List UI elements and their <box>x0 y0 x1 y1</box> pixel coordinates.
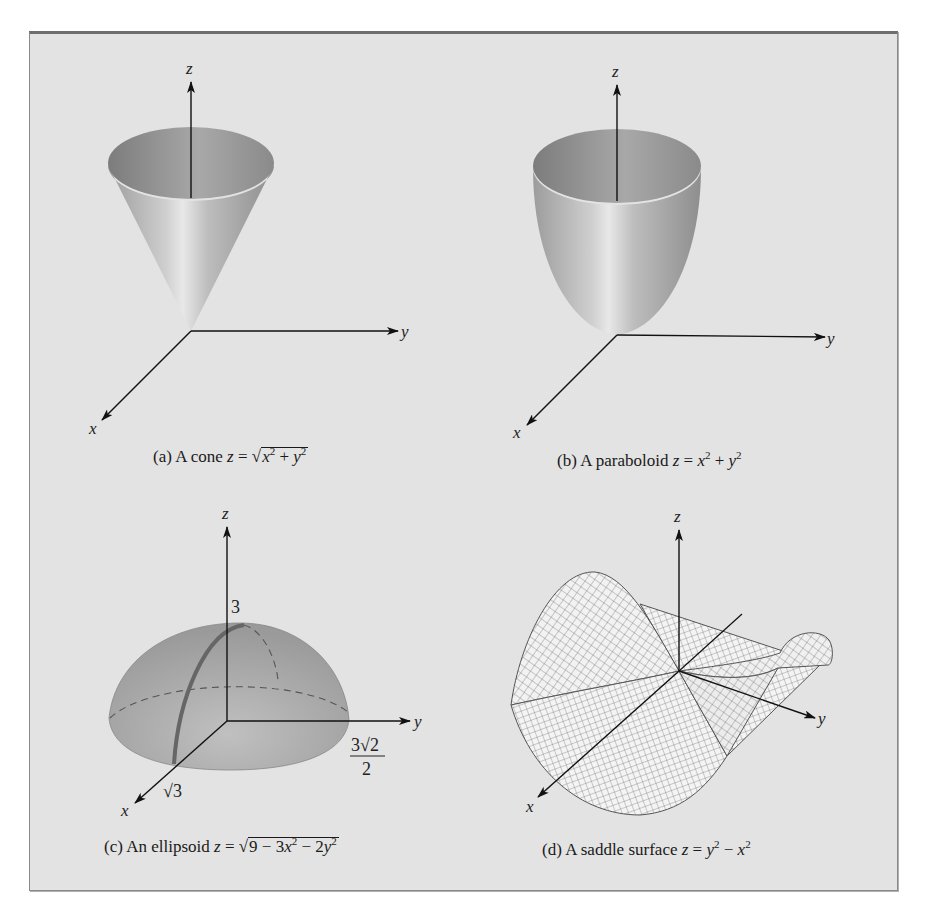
x-axis-label: x <box>525 797 534 816</box>
operator: + <box>275 447 293 466</box>
z-intercept-label: 3 <box>231 597 240 617</box>
y-axis-label: y <box>816 709 826 728</box>
x-axis <box>527 335 617 425</box>
figure-graphics: z y x z y x z y x 3 √3 <box>0 0 926 916</box>
caption-d: (d) A saddle surface z = y2 − x2 <box>542 840 751 860</box>
caption-d-prefix: (d) A saddle surface <box>542 840 682 859</box>
x-axis-label: x <box>120 801 129 820</box>
caption-c-radicand: 9 − 3x2 − 2y2 <box>248 837 339 855</box>
term: − 2 <box>297 837 324 856</box>
figure-quadric-surfaces: z y x z y x z y x 3 √3 <box>0 0 926 916</box>
panel-c-ellipsoid: z y x 3 √3 3√2 2 <box>109 504 422 820</box>
var-x: x <box>738 840 746 859</box>
operator: − <box>720 840 738 859</box>
exponent: 2 <box>331 835 337 847</box>
var-y: y <box>729 451 737 470</box>
var-x: x <box>262 447 270 466</box>
z-axis-label: z <box>673 507 681 526</box>
panel-d-saddle: z y x <box>511 507 832 816</box>
exponent: 2 <box>301 445 307 457</box>
z-axis-label: z <box>185 59 193 78</box>
caption-c: (c) An ellipsoid z = √9 − 3x2 − 2y2 <box>104 837 339 857</box>
caption-c-prefix: (c) An ellipsoid <box>104 837 214 856</box>
exponent: 2 <box>745 838 751 850</box>
operator: + <box>710 451 728 470</box>
caption-b: (b) A paraboloid z = x2 + y2 <box>557 451 742 471</box>
y-axis-label: y <box>412 712 422 731</box>
caption-a-lhs: z <box>227 447 234 466</box>
y-axis <box>617 335 825 337</box>
var-x: x <box>697 451 705 470</box>
x-intercept-label: √3 <box>163 781 182 801</box>
caption-c-equals: = <box>221 837 239 856</box>
y-axis-label: y <box>825 329 835 348</box>
caption-b-equals: = <box>679 451 697 470</box>
var-y: y <box>706 840 714 859</box>
y-intercept-denominator: 2 <box>362 759 371 779</box>
y-intercept-numerator: 3√2 <box>351 735 379 755</box>
term: 9 − 3 <box>249 837 284 856</box>
z-axis-label: z <box>221 504 229 523</box>
x-axis-label: x <box>88 419 97 438</box>
y-axis-label: y <box>399 322 409 341</box>
panel-b-paraboloid: z y x <box>512 62 835 442</box>
z-axis-label: z <box>611 62 619 81</box>
caption-a-radicand: x2 + y2 <box>261 447 308 465</box>
caption-a: (a) A cone z = √x2 + y2 <box>153 447 308 467</box>
caption-a-prefix: (a) A cone <box>153 447 227 466</box>
radical-sign: √ <box>252 447 261 466</box>
caption-c-lhs: z <box>214 837 221 856</box>
exponent: 2 <box>736 449 742 461</box>
caption-a-equals: = <box>234 447 252 466</box>
var-x: x <box>284 837 292 856</box>
caption-d-equals: = <box>688 840 706 859</box>
var-y: y <box>293 447 301 466</box>
x-axis-label: x <box>512 423 521 442</box>
caption-b-prefix: (b) A paraboloid <box>557 451 673 470</box>
x-axis <box>102 331 191 420</box>
radical-sign: √ <box>239 837 248 856</box>
panel-a-cone: z y x <box>88 59 409 438</box>
